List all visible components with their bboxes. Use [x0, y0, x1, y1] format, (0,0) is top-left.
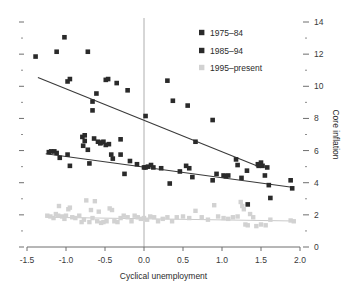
data-point-series-1: [143, 114, 148, 119]
x-tick-label: -0.5: [98, 255, 113, 265]
data-point-series-2: [226, 173, 231, 178]
y-tick-label: 0: [314, 242, 319, 252]
data-point-series-3: [239, 200, 243, 204]
data-point-series-3: [97, 209, 101, 213]
data-point-series-1: [90, 108, 95, 113]
data-point-series-2: [118, 137, 123, 142]
data-point-series-2: [187, 166, 192, 171]
data-point-series-2: [190, 175, 195, 180]
data-point-series-2: [118, 152, 123, 157]
data-point-series-3: [115, 220, 119, 224]
data-point-series-3: [90, 216, 94, 220]
data-point-series-2: [111, 156, 116, 161]
data-point-series-3: [95, 219, 99, 223]
data-point-series-3: [148, 214, 152, 218]
data-point-series-2: [245, 202, 250, 207]
x-tick-label: 2.0: [294, 255, 306, 265]
data-point-series-2: [135, 162, 140, 167]
data-point-series-3: [175, 215, 179, 219]
data-point-series-3: [263, 223, 267, 227]
data-point-series-2: [68, 164, 73, 169]
data-point-series-3: [161, 217, 165, 221]
data-point-series-2: [81, 143, 86, 148]
data-point-series-3: [51, 216, 55, 220]
data-point-series-3: [200, 215, 204, 219]
data-point-series-3: [87, 220, 91, 224]
data-point-series-1: [65, 79, 70, 84]
y-tick-label: 6: [314, 146, 319, 156]
data-point-series-3: [193, 209, 197, 213]
y-tick-label: 8: [314, 113, 319, 123]
y-tick-label: 12: [314, 49, 324, 59]
data-point-series-3: [251, 215, 255, 219]
data-point-series-3: [170, 219, 174, 223]
data-point-series-2: [288, 178, 293, 183]
data-point-series-2: [57, 156, 62, 161]
x-tick-label: 0.0: [138, 255, 150, 265]
data-point-series-2: [86, 147, 91, 152]
data-point-series-3: [77, 213, 81, 217]
legend-swatch-3: [199, 65, 204, 70]
data-point-series-2: [290, 186, 295, 191]
data-point-series-1: [114, 81, 119, 86]
data-point-series-3: [259, 222, 263, 226]
data-point-series-3: [212, 203, 216, 207]
data-point-series-3: [268, 217, 272, 221]
data-point-series-3: [187, 216, 191, 220]
data-point-series-3: [125, 215, 129, 219]
data-point-series-1: [185, 103, 190, 108]
data-point-series-1: [125, 88, 130, 93]
data-point-series-1: [193, 139, 198, 144]
data-point-series-3: [292, 219, 296, 223]
data-point-series-3: [73, 216, 77, 220]
y-tick-label: 14: [314, 17, 324, 27]
data-point-series-3: [221, 216, 225, 220]
data-point-series-3: [235, 214, 239, 218]
data-point-series-1: [86, 49, 91, 54]
data-point-series-1: [90, 99, 95, 104]
data-point-series-3: [122, 213, 126, 217]
data-point-series-2: [54, 151, 59, 156]
data-point-series-3: [242, 207, 246, 211]
data-point-series-2: [167, 181, 172, 186]
data-point-series-3: [231, 215, 235, 219]
data-point-series-2: [235, 163, 240, 168]
data-point-series-2: [109, 152, 114, 157]
data-point-series-2: [214, 172, 219, 177]
data-point-series-2: [151, 165, 156, 170]
x-tick-label: -1.0: [59, 255, 74, 265]
x-tick-label: 0.5: [177, 255, 189, 265]
data-point-series-3: [156, 219, 160, 223]
data-point-series-3: [56, 213, 60, 217]
data-point-series-2: [122, 172, 127, 177]
data-point-series-3: [84, 198, 88, 202]
data-point-series-2: [128, 159, 133, 164]
data-point-series-3: [110, 208, 114, 212]
y-tick-label: 2: [314, 210, 319, 220]
data-point-series-3: [68, 205, 72, 209]
data-point-series-2: [82, 133, 87, 138]
data-point-series-2: [265, 165, 270, 170]
legend-swatch-2: [199, 48, 204, 53]
y-axis-title: Core inflation: [331, 109, 341, 159]
data-point-series-2: [107, 142, 112, 147]
y-tick-label: 10: [314, 81, 324, 91]
data-point-series-2: [245, 168, 250, 173]
data-point-series-3: [93, 199, 97, 203]
data-point-series-2: [268, 196, 273, 201]
data-point-series-2: [178, 169, 183, 174]
data-point-series-3: [216, 214, 220, 218]
data-point-series-1: [165, 78, 170, 83]
data-point-series-3: [57, 204, 61, 208]
data-point-series-3: [89, 208, 93, 212]
data-point-series-2: [159, 166, 164, 171]
scatter-chart: -1.5-1.0-0.50.00.51.01.52.0Cyclical unem…: [0, 0, 346, 295]
x-axis-title: Cyclical unemployment: [120, 271, 208, 281]
data-point-series-2: [260, 164, 265, 169]
data-point-series-3: [226, 217, 230, 221]
data-point-series-1: [210, 118, 215, 123]
data-point-series-1: [171, 98, 176, 103]
x-tick-label: -1.5: [20, 255, 35, 265]
data-point-series-3: [165, 215, 169, 219]
chart-canvas: -1.5-1.0-0.50.00.51.01.52.0Cyclical unem…: [0, 0, 346, 295]
